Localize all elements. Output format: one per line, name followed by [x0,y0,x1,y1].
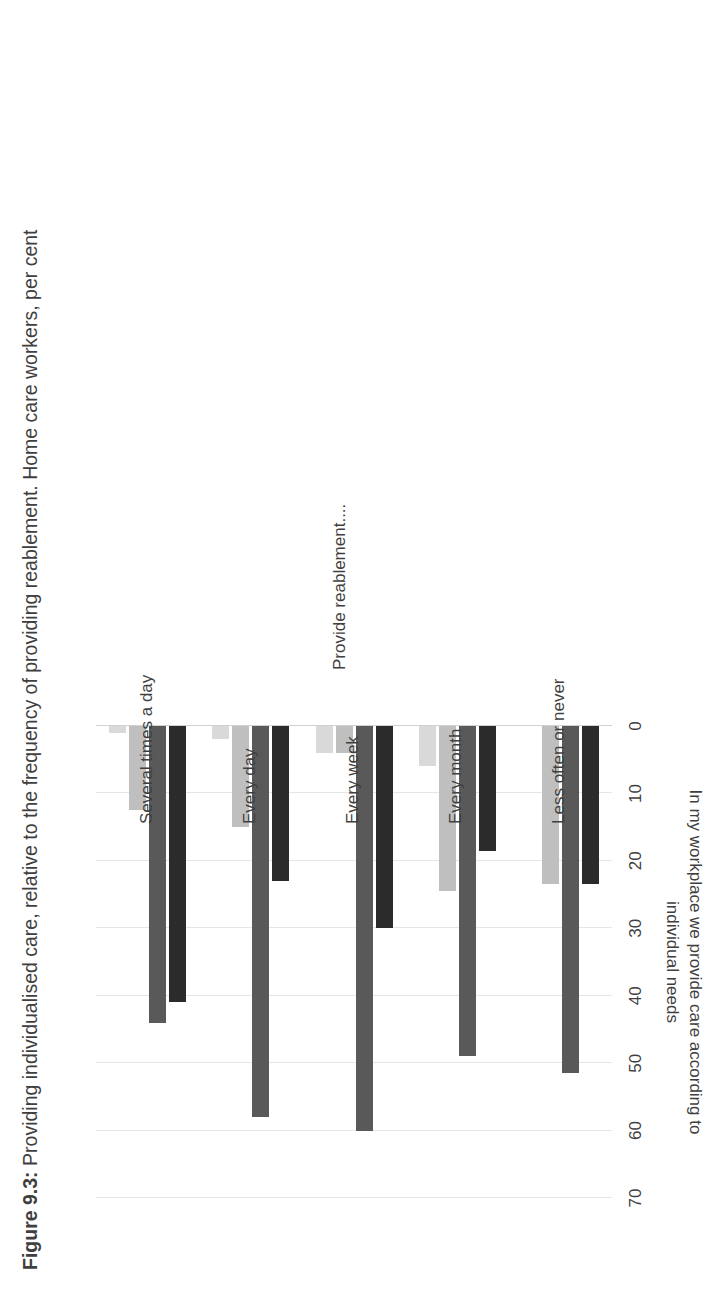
category-label: Several times a day [137,624,157,824]
value-axis-title-line-2: individual needs [660,726,683,1198]
bar [109,726,126,733]
value-tick-label: 10 [626,773,646,813]
bar [169,726,186,1002]
category-label: Less often or never [549,624,569,824]
bar [376,726,393,928]
value-tick-label: 70 [626,1178,646,1218]
category-label: Every week [343,624,363,824]
bar [212,726,229,739]
value-tick-label: 30 [626,908,646,948]
bar [316,726,333,753]
figure-caption: Providing individualised care, relative … [19,229,41,1165]
value-tick-label: 40 [626,976,646,1016]
value-tick-label: 20 [626,841,646,881]
value-axis-title-line-1: In my workplace we provide care accordin… [683,726,706,1198]
value-tick-label: 50 [626,1043,646,1083]
bar [419,726,436,766]
category-label: Every month [446,624,466,824]
bar [272,726,289,881]
value-axis-title: In my workplace we provide care accordin… [660,726,706,1198]
bar [582,726,599,884]
value-tick-label: 60 [626,1111,646,1151]
figure-title: Figure 9.3: Providing individualised car… [18,30,42,1270]
category-label: Every day [240,624,260,824]
value-tick-label: 0 [626,706,646,746]
bar [479,726,496,851]
figure-number: Figure 9.3: [19,1171,41,1270]
